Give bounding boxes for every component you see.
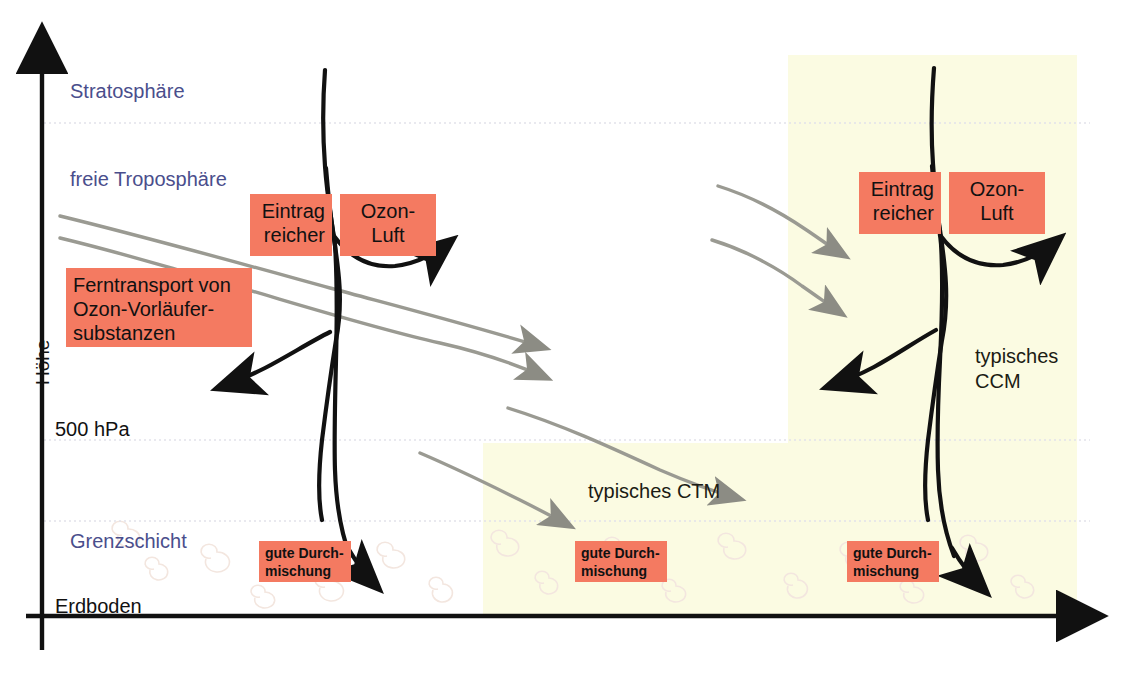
annotation-eintrag-right: Eintrag reicher	[859, 172, 941, 234]
layer-label-stratosphere: Stratosphäre	[70, 80, 185, 104]
model-label-ccm-line2: CCM	[975, 370, 1021, 394]
annotation-ferntransport: Ferntransport von Ozon-Vorläufer- substa…	[66, 268, 252, 347]
diagram-canvas: Höhe Stratosphäre freie Troposphäre Gren…	[0, 0, 1137, 680]
annotation-ozonluft-right: Ozon- Luft	[949, 172, 1045, 234]
annotation-durchmischung-3: gute Durch- mischung	[847, 541, 939, 582]
layer-label-free-troposphere: freie Troposphäre	[70, 168, 227, 192]
annotation-ozonluft-left: Ozon- Luft	[340, 194, 436, 256]
y-axis-title: Höhe	[32, 340, 54, 385]
model-label-ctm: typisches CTM	[588, 480, 720, 504]
annotation-eintrag-left: Eintrag reicher	[250, 194, 332, 256]
layer-label-boundary-layer: Grenzschicht	[70, 530, 187, 554]
annotation-durchmischung-1: gute Durch- mischung	[259, 541, 351, 582]
layer-label-ground: Erdboden	[55, 595, 142, 619]
annotation-durchmischung-2: gute Durch- mischung	[575, 541, 667, 582]
model-label-ccm-line1: typisches	[975, 345, 1058, 369]
pressure-level-label: 500 hPa	[55, 418, 130, 442]
